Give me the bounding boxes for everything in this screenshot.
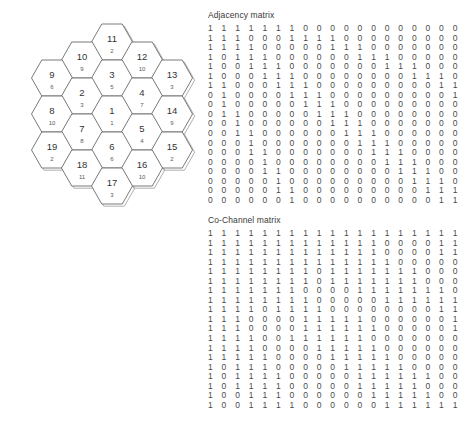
cochannel-cell: 1 xyxy=(208,401,222,411)
adjacency-cell: 0 xyxy=(398,196,412,206)
hexagon-cell-id: 12 xyxy=(137,51,148,62)
cochannel-cell: 1 xyxy=(262,401,276,411)
cochannel-cell: 0 xyxy=(330,401,344,411)
adjacency-cell: 0 xyxy=(276,196,290,206)
adjacency-matrix-title: Adjacency matrix xyxy=(208,10,466,20)
cochannel-cell: 1 xyxy=(439,401,453,411)
adjacency-cell: 1 xyxy=(453,196,467,206)
hexagon-cell-id: 4 xyxy=(139,87,144,98)
cochannel-cell: 1 xyxy=(290,401,304,411)
adjacency-cell: 0 xyxy=(222,196,236,206)
cochannel-cell: 1 xyxy=(398,401,412,411)
cochannel-cell: 0 xyxy=(317,401,331,411)
hexagon-cell-id: 7 xyxy=(79,123,84,134)
adjacency-cell: 0 xyxy=(371,196,385,206)
adjacency-cell: 0 xyxy=(262,196,276,206)
hexagon-cell-id: 3 xyxy=(109,69,114,80)
hexagon-cell-id: 8 xyxy=(49,105,54,116)
cochannel-matrix-title: Co-Channel matrix xyxy=(208,215,466,225)
hexagon-cell-id: 16 xyxy=(137,159,148,170)
hexagon-cluster-svg: 1121091210963513323478101114978541926615… xyxy=(0,0,205,240)
hexagon-cell-channel: 10 xyxy=(49,120,56,126)
hexagon-cell-channel: 10 xyxy=(139,174,146,180)
hexagon-cell-channel: 10 xyxy=(139,66,146,72)
adjacency-cell: 0 xyxy=(344,196,358,206)
adjacency-matrix-grid: 1111111000000000000111000111100000000011… xyxy=(208,24,466,205)
cochannel-cell: 0 xyxy=(222,401,236,411)
cochannel-cell: 1 xyxy=(249,401,263,411)
adjacency-cell: 0 xyxy=(330,196,344,206)
adjacency-cell: 1 xyxy=(439,196,453,206)
adjacency-cell: 0 xyxy=(208,196,222,206)
cochannel-cell: 1 xyxy=(385,401,399,411)
hexagon-cell-id: 5 xyxy=(139,123,144,134)
adjacency-cell: 0 xyxy=(358,196,372,206)
cochannel-matrix-block: Co-Channel matrix 1111111111111111111111… xyxy=(208,215,466,410)
cochannel-cell: 0 xyxy=(235,401,249,411)
cochannel-matrix-grid: 1111111111111111111111111111111100001111… xyxy=(208,229,466,410)
adjacency-matrix-block: Adjacency matrix 11111110000000000001110… xyxy=(208,10,466,205)
cochannel-cell: 1 xyxy=(426,401,440,411)
adjacency-cell: 0 xyxy=(235,196,249,206)
cochannel-cell: 0 xyxy=(371,401,385,411)
hexagon-cell-id: 6 xyxy=(109,141,114,152)
hexagon-cell-id: 13 xyxy=(167,69,178,80)
adjacency-cell: 0 xyxy=(303,196,317,206)
cochannel-cell: 1 xyxy=(276,401,290,411)
adjacency-cell: 0 xyxy=(317,196,331,206)
hexagon-cell-id: 1 xyxy=(109,105,114,116)
hexagon-cell-id: 11 xyxy=(107,33,117,44)
cochannel-cell: 1 xyxy=(412,401,426,411)
hexagon-cell-channel: 11 xyxy=(79,174,86,180)
adjacency-cell: 1 xyxy=(290,196,304,206)
hexagon-cell-id: 19 xyxy=(47,141,58,152)
cochannel-cell: 1 xyxy=(453,401,467,411)
hexagon-cell-id: 10 xyxy=(77,51,88,62)
cochannel-cell: 0 xyxy=(344,401,358,411)
adjacency-cell: 0 xyxy=(426,196,440,206)
adjacency-cell: 0 xyxy=(412,196,426,206)
hexagon-cell-id: 14 xyxy=(167,105,178,116)
adjacency-cell: 0 xyxy=(385,196,399,206)
hexagon-cell-id: 15 xyxy=(167,141,178,152)
hexagon-cells: 1121091210963513323478101114978541926615… xyxy=(32,24,193,204)
adjacency-cell: 0 xyxy=(249,196,263,206)
hexagon-cell-id: 17 xyxy=(107,177,118,188)
hexagon-cluster-diagram: 1121091210963513323478101114978541926615… xyxy=(0,0,205,240)
cochannel-cell: 0 xyxy=(358,401,372,411)
cochannel-cell: 0 xyxy=(303,401,317,411)
hexagon-cell-id: 18 xyxy=(77,159,88,170)
hexagon-cell-id: 9 xyxy=(49,69,54,80)
hexagon-cell-id: 2 xyxy=(79,87,84,98)
